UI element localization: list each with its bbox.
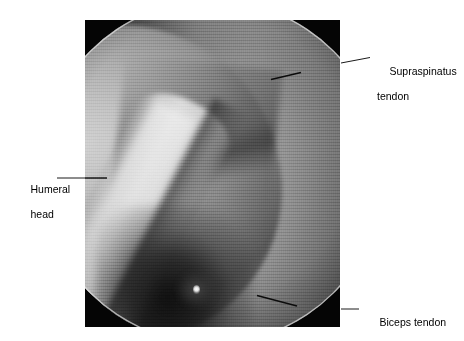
arthroscope-field-of-view — [85, 20, 340, 327]
label-supraspinatus-line1: Supraspinatus — [390, 65, 457, 77]
label-biceps-tendon-line1: Biceps tendon — [380, 316, 447, 328]
label-humeral-head: Humeral head — [13, 170, 70, 233]
label-humeral-head-line1: Humeral — [31, 183, 71, 195]
label-biceps-tendon: Biceps tendon — [362, 303, 446, 341]
label-supraspinatus-line2: tendon — [372, 90, 457, 103]
label-supraspinatus-tendon: Supraspinatus tendon — [372, 52, 457, 127]
specular-highlight — [193, 285, 200, 294]
label-humeral-head-line2: head — [31, 208, 54, 220]
leader-line-supraspinatus-outer — [341, 58, 370, 64]
arthroscopy-figure: Supraspinatus tendon Humeral head Biceps… — [0, 0, 464, 341]
photograph-plate — [85, 20, 340, 327]
